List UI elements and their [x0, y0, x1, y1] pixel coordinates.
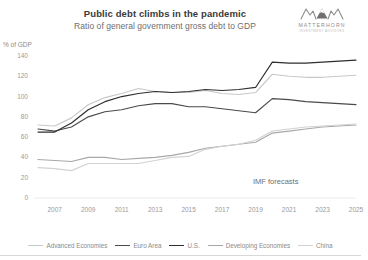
- legend-label: Developing Economies: [226, 242, 290, 249]
- legend-label: U.S.: [187, 242, 199, 249]
- series-line: [38, 125, 356, 162]
- legend-item[interactable]: China: [298, 242, 332, 249]
- plot-svg: [0, 48, 361, 210]
- y-tick-label: 20: [8, 174, 28, 181]
- matterhorn-logo: MATTERHORN INVESTMENT ADVISORS: [289, 6, 355, 36]
- x-tick-label: 2013: [142, 206, 168, 213]
- legend-label: China: [316, 242, 332, 249]
- logo-wordmark: MATTERHORN: [289, 22, 355, 28]
- x-tick-label: 2023: [310, 206, 336, 213]
- y-tick-label: 80: [8, 113, 28, 120]
- chart-title: Public debt climbs in the pandemic: [0, 8, 330, 19]
- series-line: [38, 99, 356, 131]
- y-tick-label: 40: [8, 153, 28, 160]
- legend-label: Euro Area: [133, 242, 161, 249]
- y-tick-label: 100: [8, 93, 28, 100]
- x-tick-label: 2007: [42, 206, 68, 213]
- x-tick-label: 2019: [243, 206, 269, 213]
- legend-label: Advanced Economies: [46, 242, 107, 249]
- x-tick-label: 2011: [109, 206, 135, 213]
- y-tick-label: 120: [8, 72, 28, 79]
- x-tick-label: 2017: [209, 206, 235, 213]
- y-tick-label: 140: [8, 52, 28, 59]
- x-tick-label: 2021: [276, 206, 302, 213]
- legend-item[interactable]: Developing Economies: [208, 242, 290, 249]
- legend-swatch: [115, 245, 130, 246]
- chart-subtitle: Ratio of general government gross debt t…: [0, 21, 330, 31]
- imf-forecast-annotation: IMF forecasts: [253, 177, 298, 186]
- legend-swatch: [28, 245, 43, 246]
- legend-item[interactable]: Advanced Economies: [28, 242, 107, 249]
- legend-swatch: [208, 245, 223, 246]
- y-tick-label: 60: [8, 133, 28, 140]
- x-tick-label: 2015: [176, 206, 202, 213]
- legend-item[interactable]: Euro Area: [115, 242, 161, 249]
- logo-tagline: INVESTMENT ADVISORS: [289, 29, 355, 33]
- y-axis-unit-label: % of GDP: [3, 41, 32, 48]
- series-line: [38, 60, 356, 132]
- legend-swatch: [169, 245, 184, 246]
- matterhorn-mountain-mark: [299, 6, 345, 21]
- series-line: [38, 124, 356, 171]
- x-tick-label: 2009: [75, 206, 101, 213]
- x-tick-label: 2025: [343, 206, 368, 213]
- chart-legend: Advanced EconomiesEuro AreaU.S.Developin…: [0, 235, 361, 255]
- plot-area: [0, 48, 361, 210]
- y-tick-label: 0: [8, 194, 28, 201]
- footer-divider: [0, 255, 361, 256]
- legend-swatch: [298, 245, 313, 246]
- legend-item[interactable]: U.S.: [169, 242, 199, 249]
